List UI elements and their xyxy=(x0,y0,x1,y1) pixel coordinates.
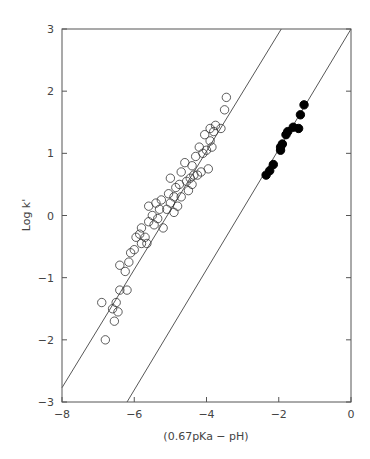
open-data-point xyxy=(101,336,109,344)
open-data-point xyxy=(166,174,174,182)
open-data-point xyxy=(184,186,192,194)
y-tick-label: 2 xyxy=(47,85,54,98)
axis-ticks: −8−6−4−20−3−2−10123 xyxy=(38,23,355,421)
open-data-point xyxy=(126,249,134,257)
open-data-point xyxy=(125,258,133,266)
open-data-point xyxy=(121,267,129,275)
x-tick-label: −8 xyxy=(54,408,70,421)
plot-frame xyxy=(62,29,351,402)
x-axis-title: (0.67pKa − pH) xyxy=(163,430,248,443)
open-data-point xyxy=(177,168,185,176)
open-data-point xyxy=(204,165,212,173)
open-data-point xyxy=(110,317,118,325)
y-tick-label: 3 xyxy=(47,23,54,36)
open-data-point xyxy=(199,149,207,157)
x-tick-label: −6 xyxy=(126,408,142,421)
open-data-point xyxy=(172,183,180,191)
y-tick-label: 1 xyxy=(47,147,54,160)
open-data-point xyxy=(170,208,178,216)
fit-lines xyxy=(62,29,351,402)
open-data-point xyxy=(220,106,228,114)
filled-data-point xyxy=(294,124,302,132)
filled-data-point xyxy=(300,101,308,109)
filled-data-point xyxy=(296,111,304,119)
y-tick-label: −1 xyxy=(38,272,54,285)
fit-line xyxy=(62,29,281,388)
y-tick-label: 0 xyxy=(47,210,54,223)
x-tick-label: 0 xyxy=(348,408,355,421)
x-tick-label: −2 xyxy=(271,408,287,421)
open-data-point xyxy=(222,93,230,101)
scatter-chart: −8−6−4−20−3−2−10123 (0.67pKa − pH) Log k… xyxy=(0,0,370,459)
filled-data-point xyxy=(269,160,277,168)
open-data-point xyxy=(98,298,106,306)
x-tick-label: −4 xyxy=(198,408,214,421)
open-data-point xyxy=(193,171,201,179)
y-tick-label: −3 xyxy=(38,396,54,409)
y-axis-title: Log k' xyxy=(20,199,33,232)
data-points xyxy=(98,93,309,344)
open-data-point xyxy=(137,224,145,232)
open-data-point xyxy=(173,202,181,210)
open-data-point xyxy=(188,162,196,170)
filled-data-point xyxy=(278,140,286,148)
y-tick-label: −2 xyxy=(38,334,54,347)
open-data-point xyxy=(159,224,167,232)
open-data-point xyxy=(130,245,138,253)
